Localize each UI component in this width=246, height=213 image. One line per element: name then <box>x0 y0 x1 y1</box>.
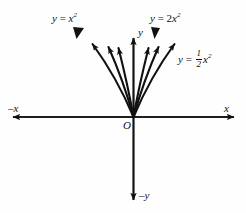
curve-label-x-squared: y = x2 <box>52 12 77 24</box>
curve-label-2x2-exponent: 2 <box>177 11 181 19</box>
pointer-arrow-2x2 <box>151 27 160 39</box>
curve-label-2-x-squared: y = 2x2 <box>150 12 181 24</box>
axis-label-positive-x: x <box>224 103 229 114</box>
parabola-figure: y = x2 y = 2x2 y = 12x2 –x x y –y O <box>0 0 246 213</box>
axis-label-negative-y: –y <box>139 190 149 201</box>
pointer-arrow-x2 <box>73 27 84 39</box>
curve-label-half-equals: = <box>183 53 195 65</box>
axis-label-negative-x: –x <box>8 103 18 114</box>
graph-canvas <box>0 0 246 213</box>
axis-label-positive-y: y <box>138 27 143 38</box>
curve-label-x2-exponent: 2 <box>74 11 78 19</box>
fraction-numerator: 1 <box>196 49 203 58</box>
origin-label: O <box>123 120 131 131</box>
fraction-one-half: 12 <box>196 49 203 69</box>
fraction-denominator: 2 <box>196 60 203 69</box>
curve-label-half-x-squared: y = 12x2 <box>178 50 212 70</box>
curve-label-half-exponent: 2 <box>208 52 212 60</box>
curve-label-2x2-equals: = <box>155 12 167 24</box>
curve-label-x2-equals: = <box>57 12 69 24</box>
